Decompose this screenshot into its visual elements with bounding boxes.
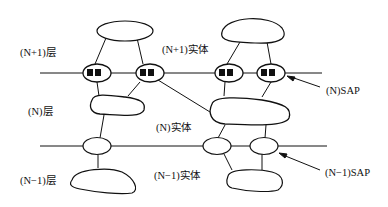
n-entity-left (91, 95, 145, 115)
entity-label-n-minus-1: (N−1)实体 (154, 169, 201, 182)
n-plus-1-entity-right (222, 19, 285, 44)
layer-label-n-minus-1: (N−1)层 (20, 175, 56, 187)
sap-label-n: (N)SAP (326, 85, 360, 97)
layer-label-n-plus-1: (N+1)层 (20, 47, 56, 59)
entity-label-n: (N)实体 (156, 121, 192, 134)
entity-label-n-plus-1: (N+1)实体 (162, 43, 209, 56)
n-minus-1-sap-3 (250, 138, 278, 155)
osi-layer-diagram: (N+1)层 (N)层 (N−1)层 (N+1)实体 (N)实体 (N−1)实体… (0, 0, 388, 207)
n-sap-pointer-arrow (291, 77, 320, 87)
sap-label-n-minus-1: (N−1)SAP (325, 167, 370, 179)
layer-label-n: (N)层 (28, 106, 53, 118)
n-minus-1-entity-right (227, 170, 283, 192)
n-minus-1-sap-2 (203, 138, 231, 155)
n-entity-right (210, 98, 289, 125)
n-minus-1-entity-left (71, 169, 136, 193)
n-plus-1-entity-left (97, 21, 153, 41)
n-minus-1-sap-1 (83, 138, 111, 155)
n-minus-1-sap-pointer-arrow (283, 155, 320, 170)
